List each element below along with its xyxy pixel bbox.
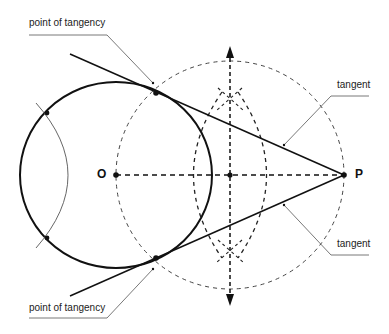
label-point-O: O — [97, 167, 106, 181]
point-O — [113, 172, 119, 178]
leader-dot — [152, 82, 154, 84]
label-point-P: P — [355, 167, 363, 181]
arc-intersection-bottom — [45, 236, 50, 241]
tangent-line-bottom — [70, 175, 344, 296]
label-tangent-bottom: tangent — [337, 238, 370, 249]
tangency-point-top — [153, 90, 159, 96]
label-point-of-tangency-bottom: point of tangency — [29, 302, 105, 313]
leader-dot — [152, 268, 154, 270]
diagram-canvas — [0, 0, 389, 334]
tangency-point-bottom — [153, 255, 159, 261]
arc-intersection-top — [45, 111, 50, 116]
leader-dot — [283, 144, 285, 146]
arrow-down-icon — [226, 294, 234, 306]
bisector-cross-top — [217, 88, 243, 110]
tangent-line-top — [70, 54, 344, 175]
leader-point-of-tangency-top — [29, 35, 153, 83]
label-tangent-top: tangent — [337, 79, 370, 90]
point-P — [341, 172, 347, 178]
arrow-up-icon — [226, 46, 234, 58]
construction-arc-left — [36, 103, 68, 248]
midpoint — [227, 172, 232, 177]
leader-tangent-top — [284, 96, 369, 145]
leader-dot — [283, 204, 285, 206]
label-point-of-tangency-top: point of tangency — [29, 17, 105, 28]
tangent-construction-diagram: point of tangency point of tangency tang… — [0, 0, 389, 334]
